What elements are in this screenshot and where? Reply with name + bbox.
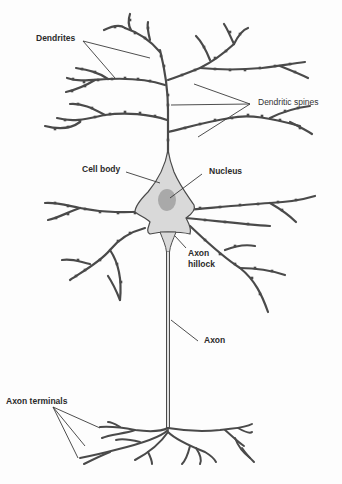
- neuron-illustration: [0, 0, 342, 484]
- label-axon-terminals: Axon terminals: [6, 397, 67, 407]
- axon-hillock-shape: [160, 232, 176, 252]
- neuron-diagram: Dendrites Dendritic spines Cell body Nuc…: [0, 0, 342, 484]
- label-axon: Axon: [204, 336, 225, 346]
- label-dendritic-spines: Dendritic spines: [258, 98, 318, 108]
- leader-lines: [53, 41, 250, 458]
- label-dendrites: Dendrites: [36, 34, 75, 44]
- label-axon-hillock-line2: hillock: [188, 260, 215, 270]
- label-nucleus: Nucleus: [209, 167, 242, 177]
- label-axon-hillock-line1: Axon: [188, 249, 209, 259]
- dendritic-spines-markers: [54, 19, 302, 296]
- label-cell-body: Cell body: [82, 165, 120, 175]
- axon-terminals-shape: [80, 422, 254, 464]
- nucleus-shape: [158, 189, 176, 211]
